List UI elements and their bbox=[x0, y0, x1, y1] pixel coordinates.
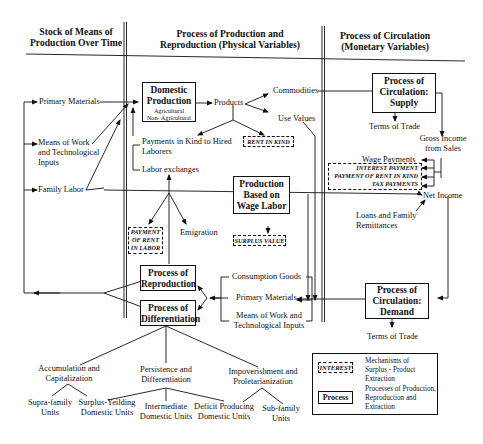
payments-in-kind-line1: Payments in Kind to Hired bbox=[142, 137, 232, 147]
legend-process-line2: Reproduction and bbox=[365, 394, 436, 403]
means-of-work-2-line2: Technological Inputs bbox=[229, 321, 309, 331]
means-of-work-line2: and Technological bbox=[38, 148, 99, 158]
persistence-line1: Persistence and bbox=[131, 365, 201, 375]
surplus-yielding-label: Surplus-Yeilding Domestic Units bbox=[77, 398, 137, 418]
header-production-line2: Reproduction (Physical Variables) bbox=[150, 39, 310, 50]
payments-mechanisms-group: INTEREST PAYMENT PAYMENT OF RENT IN KIND… bbox=[328, 163, 422, 190]
gross-income-line2: from Sales bbox=[415, 144, 471, 154]
demand-line3: Demand bbox=[366, 307, 428, 318]
surplus-yielding-line1: Surplus-Yeilding bbox=[77, 398, 137, 408]
domestic-production-box: Domestic Production Agricultural Non- Ag… bbox=[142, 82, 196, 122]
header-circulation-line2: (Monetary Variables) bbox=[335, 41, 435, 52]
rent-in-labor-mechanism: PAYMENT OF RENT IN LABOR bbox=[128, 227, 163, 254]
persistence-line2: Differentiation bbox=[131, 375, 201, 385]
commodities-label: Commodities bbox=[273, 86, 318, 96]
payments-in-kind-line2: Laborers bbox=[142, 147, 232, 157]
sub-family-label: Sub-family Units bbox=[258, 404, 304, 424]
supply-line2: Circulation: bbox=[373, 87, 435, 98]
legend-mechanism-desc: Mechanisms of Surplus - Product Extracti… bbox=[365, 357, 415, 384]
terms-of-trade-top-label: Terms of Trade bbox=[369, 122, 420, 132]
intermediate-line2: Domestic Units bbox=[138, 412, 194, 422]
legend-process-desc: Processes of Production, Reproduction an… bbox=[365, 385, 436, 412]
family-labor-label: Family Labor bbox=[38, 185, 84, 195]
intermediate-label: Intermediate Domestic Units bbox=[138, 402, 194, 422]
accumulation-line1: Accumulation and bbox=[34, 364, 104, 374]
wage-labor-box: Production Based on Wage Labor bbox=[233, 176, 290, 214]
rent-in-kind-mechanism: RENT IN KIND bbox=[243, 136, 294, 147]
demand-line2: Circulation: bbox=[366, 296, 428, 307]
differentiation-box: Process of Differentiation bbox=[140, 300, 196, 326]
legend-mechanism-line2: Surplus - Product bbox=[365, 366, 415, 375]
supra-family-line1: Supra-family bbox=[24, 398, 76, 408]
tax-payments-mechanism: TAX PAYMENTS bbox=[329, 180, 418, 188]
means-of-work-2-label: Means of Work and Technological Inputs bbox=[229, 311, 309, 331]
primary-materials-label: Primary Materials bbox=[39, 97, 100, 107]
legend-mechanism-line3: Extraction bbox=[365, 375, 415, 384]
supply-box: Process of Circulation: Supply bbox=[372, 73, 436, 113]
domestic-production-title2: Production bbox=[143, 96, 195, 107]
payment-rent-kind-mechanism: PAYMENT OF RENT IN KIND bbox=[329, 172, 418, 180]
persistence-label: Persistence and Differentiation bbox=[131, 365, 201, 385]
accumulation-line2: Capitalization bbox=[34, 374, 104, 384]
supply-line3: Supply bbox=[373, 98, 435, 109]
header-circulation-line1: Process of Circulation bbox=[335, 30, 435, 41]
means-of-work-line1: Means of Work bbox=[38, 138, 99, 148]
demand-line1: Process of bbox=[366, 285, 428, 296]
intermediate-line1: Intermediate bbox=[138, 402, 194, 412]
supply-line1: Process of bbox=[373, 76, 435, 87]
emigration-label: Emigration bbox=[180, 228, 218, 238]
loans-label: Loans and Family Remittances bbox=[356, 211, 416, 231]
consumption-goods-label: Consumption Goods bbox=[232, 272, 301, 282]
deficit-line1: Deficit Producing bbox=[194, 402, 254, 412]
payments-in-kind-label: Payments in Kind to Hired Laborers bbox=[142, 137, 232, 157]
loans-line2: Remittances bbox=[356, 221, 416, 231]
header-production: Process of Production and Reproduction (… bbox=[150, 28, 310, 50]
reproduction-box: Process of Reproduction bbox=[140, 265, 196, 291]
reproduction-line1: Process of bbox=[141, 268, 195, 279]
differentiation-line1: Process of bbox=[141, 303, 195, 314]
accumulation-label: Accumulation and Capitalization bbox=[34, 364, 104, 384]
impoverishment-line1: Impoverishment and bbox=[225, 367, 301, 377]
legend-process-sample: Process bbox=[318, 391, 353, 404]
legend-mechanism-line1: Mechanisms of bbox=[365, 357, 415, 366]
rent-in-labor-line2: OF RENT bbox=[129, 236, 162, 244]
legend-process-line1: Processes of Production, bbox=[365, 385, 436, 394]
surplus-yielding-line2: Domestic Units bbox=[77, 408, 137, 418]
primary-materials-2-label: Primary Materials bbox=[236, 293, 297, 303]
net-income-label: Net Income bbox=[423, 191, 462, 201]
deficit-label: Deficit Producing Domestic Units bbox=[194, 402, 254, 422]
legend-mechanism-sample: INTEREST bbox=[318, 362, 353, 373]
legend-process-line3: Extraction bbox=[365, 403, 436, 412]
loans-line1: Loans and Family bbox=[356, 211, 416, 221]
header-stock: Stock of Means of Production Over Time bbox=[28, 26, 124, 48]
wage-labor-line2: Based on bbox=[234, 190, 289, 201]
use-values-label: Use Values bbox=[278, 114, 315, 124]
gross-income-line1: Gross Income bbox=[415, 134, 471, 144]
impoverishment-label: Impoverishment and Proletarianization bbox=[225, 367, 301, 387]
means-of-work-line3: Inputs bbox=[38, 158, 99, 168]
domestic-production-sub2: Non- Agricultural bbox=[143, 114, 195, 121]
labor-exchanges-label: Labor exchanges bbox=[142, 165, 199, 175]
means-of-work-label: Means of Work and Technological Inputs bbox=[38, 138, 99, 168]
rent-in-labor-line3: IN LABOR bbox=[129, 244, 162, 252]
wage-labor-line3: Wage Labor bbox=[234, 201, 289, 212]
legend: INTEREST Mechanisms of Surplus - Product… bbox=[312, 353, 438, 415]
header-stock-line2: Production Over Time bbox=[28, 37, 124, 48]
sub-family-line2: Units bbox=[258, 414, 304, 424]
terms-of-trade-bottom-label: Terms of Trade bbox=[367, 332, 418, 342]
surplus-value-mechanism: SURPLUS VALUE bbox=[233, 235, 286, 246]
wage-labor-line1: Production bbox=[234, 179, 289, 190]
header-production-line1: Process of Production and bbox=[150, 28, 310, 39]
rent-in-labor-line1: PAYMENT bbox=[129, 228, 162, 236]
header-circulation: Process of Circulation (Monetary Variabl… bbox=[335, 30, 435, 52]
supra-family-line2: Units bbox=[24, 408, 76, 418]
reproduction-line2: Reproduction bbox=[141, 279, 195, 290]
domestic-production-sub1: Agricultural bbox=[143, 107, 195, 114]
means-of-work-2-line1: Means of Work and bbox=[229, 311, 309, 321]
domestic-production-title1: Domestic bbox=[143, 85, 195, 96]
sub-family-line1: Sub-family bbox=[258, 404, 304, 414]
interest-payment-mechanism: INTEREST PAYMENT bbox=[329, 164, 418, 172]
deficit-line2: Domestic Units bbox=[194, 412, 254, 422]
gross-income-label: Gross Income from Sales bbox=[415, 134, 471, 154]
differentiation-line2: Differentiation bbox=[141, 314, 195, 325]
